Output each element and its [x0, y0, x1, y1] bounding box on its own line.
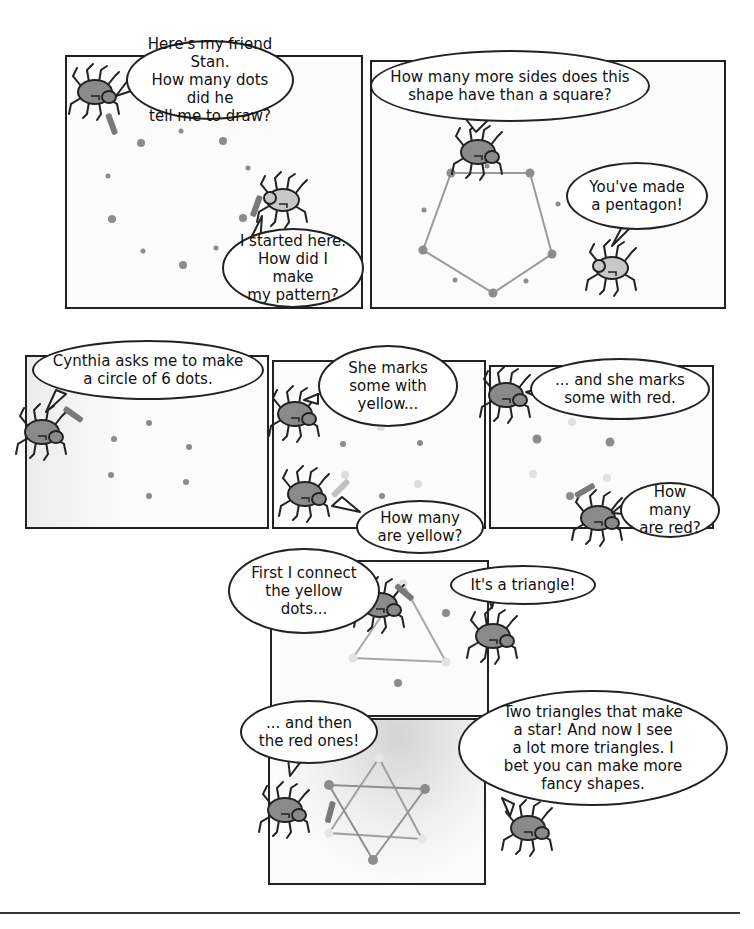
spider-icon [572, 490, 622, 546]
spider-icon [16, 404, 66, 460]
speech-bubble: I started here. How did I make my patter… [222, 228, 364, 308]
spider-icon [259, 782, 309, 838]
stan-spider-icon [586, 240, 636, 296]
speech-bubble: How many are red? [620, 482, 720, 538]
speech-bubble: Two triangles that make a star! And now … [458, 690, 728, 806]
spider-icon [467, 608, 517, 664]
panel-5-dots [529, 418, 615, 500]
speech-bubble: You've made a pentagon! [566, 162, 708, 230]
panel-3-dots [108, 420, 192, 499]
star-shape [324, 754, 430, 866]
speech-bubble: ... and then the red ones! [240, 700, 378, 764]
speech-bubble: How many are yellow? [356, 500, 484, 554]
bottom-rule [0, 912, 740, 914]
spider-icon [69, 64, 119, 120]
panel-4-dots [340, 423, 423, 499]
speech-bubble: First I connect the yellow dots... [228, 548, 380, 634]
pentagon-shape [419, 164, 561, 298]
panel-1-dots [106, 129, 251, 270]
speech-bubble: Here's my friend Stan. How many dots did… [126, 40, 294, 120]
speech-bubble: Cynthia asks me to make a circle of 6 do… [32, 340, 264, 400]
speech-bubble: ... and she marks some with red. [530, 358, 710, 420]
speech-bubble: She marks some with yellow... [318, 345, 458, 427]
spider-icon [269, 386, 319, 442]
speech-bubble: It's a triangle! [450, 565, 596, 605]
spider-icon [279, 466, 329, 522]
stan-spider-icon [257, 172, 307, 228]
spider-icon [480, 367, 530, 423]
speech-bubble: How many more sides does this shape have… [370, 50, 650, 122]
